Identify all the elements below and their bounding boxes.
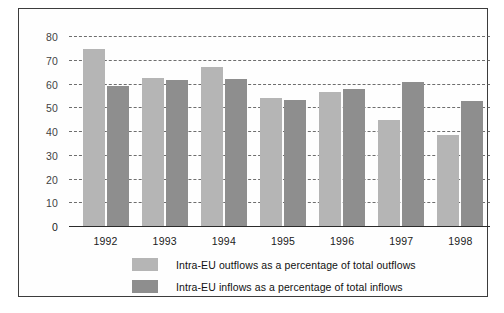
bar-outflows-1994 [201, 67, 223, 226]
x-axis-tick-label: 1994 [212, 235, 236, 247]
bar-outflows-1997 [378, 120, 400, 226]
bar-outflows-1995 [260, 98, 282, 226]
y-axis-tick-label: 20 [46, 174, 58, 186]
legend-swatch-inflows [132, 280, 158, 293]
y-axis-tick-label: 10 [46, 197, 58, 209]
y-axis-tick-label: 30 [46, 150, 58, 162]
x-axis-line: 0 [69, 226, 490, 227]
x-axis-tick-label: 1996 [330, 235, 354, 247]
chart-figure: 01020304050607080 1992199319941995199619… [0, 0, 504, 313]
y-axis-tick-label: 50 [46, 102, 58, 114]
x-axis-tick-label: 1998 [448, 235, 472, 247]
legend-item-outflows: Intra-EU outflows as a percentage of tot… [132, 258, 416, 271]
bar-groups: 1992199319941995199619971998 [76, 36, 490, 226]
y-axis-tick-label: 80 [46, 31, 58, 43]
y-axis-tick-label: 0 [52, 221, 58, 233]
bar-inflows-1993 [166, 80, 188, 226]
legend-label-outflows: Intra-EU outflows as a percentage of tot… [176, 259, 416, 271]
legend-label-inflows: Intra-EU inflows as a percentage of tota… [176, 281, 403, 293]
y-axis-tick-label: 60 [46, 79, 58, 91]
bar-group: 1992 [76, 36, 135, 226]
x-axis-tick-label: 1997 [389, 235, 413, 247]
legend-swatch-outflows [132, 258, 158, 271]
bar-group: 1993 [135, 36, 194, 226]
bar-group: 1998 [431, 36, 490, 226]
x-axis-tick-label: 1993 [153, 235, 177, 247]
chart-legend: Intra-EU outflows as a percentage of tot… [132, 258, 416, 293]
y-axis-tick-label: 70 [46, 55, 58, 67]
y-axis-tick-label: 40 [46, 126, 58, 138]
bar-inflows-1992 [107, 86, 129, 226]
bar-outflows-1992 [83, 49, 105, 226]
bar-inflows-1996 [343, 89, 365, 226]
x-axis-tick-label: 1995 [271, 235, 295, 247]
plot-area: 01020304050607080 1992199319941995199619… [76, 36, 490, 226]
bar-group: 1994 [194, 36, 253, 226]
bar-group: 1997 [372, 36, 431, 226]
bar-group: 1995 [253, 36, 312, 226]
chart-frame-border: 01020304050607080 1992199319941995199619… [18, 8, 488, 297]
bar-inflows-1995 [284, 100, 306, 226]
x-axis-tick-label: 1992 [93, 235, 117, 247]
bar-inflows-1997 [402, 82, 424, 226]
bar-inflows-1998 [461, 101, 483, 226]
legend-item-inflows: Intra-EU inflows as a percentage of tota… [132, 280, 416, 293]
bar-outflows-1998 [437, 135, 459, 226]
bar-outflows-1993 [142, 78, 164, 226]
bar-outflows-1996 [319, 92, 341, 226]
bar-group: 1996 [313, 36, 372, 226]
bar-inflows-1994 [225, 79, 247, 226]
